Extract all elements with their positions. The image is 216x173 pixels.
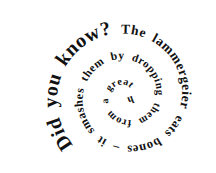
spiral-segment-5: dropping xyxy=(131,51,167,105)
did-you-know-spiral-figure: Did you know? The lammergeier eats bones… xyxy=(40,16,216,173)
spiral-text: Did you know? The lammergeier eats bones… xyxy=(40,16,194,157)
spiral-segment-7: a great xyxy=(99,75,141,103)
spiral-text-svg: Did you know? The lammergeier eats bones… xyxy=(40,16,216,173)
spiral-textpath: Did you know? The lammergeier eats bones… xyxy=(40,16,194,157)
